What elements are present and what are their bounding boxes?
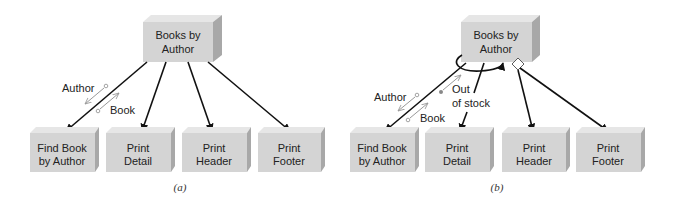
panel-caption: (a) (174, 181, 187, 194)
call-edge (208, 62, 290, 131)
call-edge (66, 62, 147, 131)
couple-label: of stock (452, 97, 490, 109)
module-label: Print (203, 142, 226, 154)
module-books-by-author[interactable]: Books by Author (461, 15, 540, 62)
couple-label: Book (420, 112, 446, 124)
module-label: Books by (473, 29, 519, 41)
module-label: Detail (443, 155, 471, 167)
module-label: Footer (592, 155, 624, 167)
module-label: Print (523, 142, 546, 154)
module-label: Header (516, 155, 552, 167)
module-label: Find Book (357, 142, 407, 154)
module-print-footer[interactable]: Print Footer (258, 127, 325, 172)
couple-label: Author (62, 82, 95, 94)
module-print-footer[interactable]: Print Footer (576, 127, 645, 172)
module-label: Print (597, 142, 620, 154)
module-label: Books by (155, 29, 201, 41)
call-edge (188, 62, 212, 131)
module-print-detail[interactable]: Print Detail (425, 127, 494, 172)
module-label: Author (162, 43, 195, 55)
module-print-detail[interactable]: Print Detail (106, 127, 175, 172)
call-edge (520, 68, 608, 131)
control-couple-icon (439, 90, 443, 94)
couple-book: Book (406, 103, 445, 124)
data-couple-icon (104, 84, 108, 88)
call-edge (142, 62, 166, 131)
couple-book: Book (96, 93, 135, 116)
module-find-book-by-author[interactable]: Find Book by Author (350, 127, 419, 172)
module-label: Print (446, 142, 469, 154)
module-find-book-by-author[interactable]: Find Book by Author (30, 127, 99, 172)
module-label: by Author (359, 155, 406, 167)
module-label: by Author (39, 155, 86, 167)
couple-label: Out (452, 83, 470, 95)
couple-label: Author (374, 91, 407, 103)
call-edge (518, 70, 533, 131)
module-label: Print (127, 142, 150, 154)
structure-chart-diagram: Books by Author Author Book Find Book by… (0, 0, 678, 205)
module-label: Find Book (37, 142, 87, 154)
call-edge (474, 63, 484, 93)
module-label: Print (278, 142, 301, 154)
panel-b: Books by Author Author Book Out of stoc (350, 15, 645, 194)
module-label: Author (480, 43, 513, 55)
module-print-header[interactable]: Print Header (502, 127, 570, 172)
module-books-by-author[interactable]: Books by Author (143, 15, 222, 62)
module-label: Header (196, 155, 232, 167)
module-label: Detail (124, 155, 152, 167)
data-couple-icon (406, 118, 410, 122)
data-couple-icon (415, 93, 419, 97)
couple-label: Book (110, 104, 136, 116)
module-print-header[interactable]: Print Header (182, 127, 251, 172)
panel-a: Books by Author Author Book Find Book by… (30, 15, 325, 194)
module-label: Footer (273, 155, 305, 167)
data-couple-icon (96, 109, 100, 113)
panel-caption: (b) (491, 181, 504, 194)
